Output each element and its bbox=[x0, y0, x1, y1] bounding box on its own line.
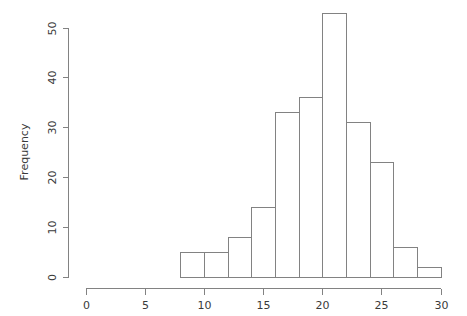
y-tick-label: 30 bbox=[46, 121, 59, 135]
x-tick-label: 20 bbox=[316, 299, 330, 312]
y-tick-label: 20 bbox=[46, 171, 59, 185]
histogram-bar bbox=[371, 163, 394, 278]
x-tick-label: 10 bbox=[198, 299, 212, 312]
x-tick-label: 30 bbox=[435, 299, 449, 312]
histogram-bar bbox=[418, 268, 442, 278]
y-axis-title: Frequency bbox=[18, 123, 31, 180]
histogram-bar bbox=[181, 253, 205, 278]
histogram-bar bbox=[252, 208, 276, 278]
y-tick-label: 40 bbox=[46, 71, 59, 85]
bars-group bbox=[181, 14, 442, 278]
histogram-bar bbox=[229, 238, 252, 278]
x-tick-label: 5 bbox=[142, 299, 149, 312]
y-tick-label: 0 bbox=[46, 274, 59, 281]
x-axis-ticks bbox=[87, 289, 442, 295]
y-tick-label: 10 bbox=[46, 221, 59, 235]
y-axis-ticks bbox=[63, 29, 69, 278]
histogram-plot: 01020304050 051015202530 Frequency bbox=[0, 0, 467, 316]
x-tick-label: 15 bbox=[257, 299, 271, 312]
histogram-bar bbox=[205, 253, 229, 278]
histogram-bar bbox=[323, 14, 347, 278]
histogram-bar bbox=[394, 248, 418, 278]
histogram-bar bbox=[276, 113, 300, 278]
histogram-bar bbox=[347, 123, 371, 278]
y-tick-label: 50 bbox=[46, 22, 59, 36]
x-tick-label: 25 bbox=[375, 299, 389, 312]
histogram-bar bbox=[300, 98, 323, 278]
x-tick-label: 0 bbox=[83, 299, 90, 312]
x-axis-tick-labels: 051015202530 bbox=[83, 299, 449, 312]
y-axis-tick-labels: 01020304050 bbox=[46, 22, 59, 282]
chart-canvas: 01020304050 051015202530 Frequency bbox=[0, 0, 467, 316]
